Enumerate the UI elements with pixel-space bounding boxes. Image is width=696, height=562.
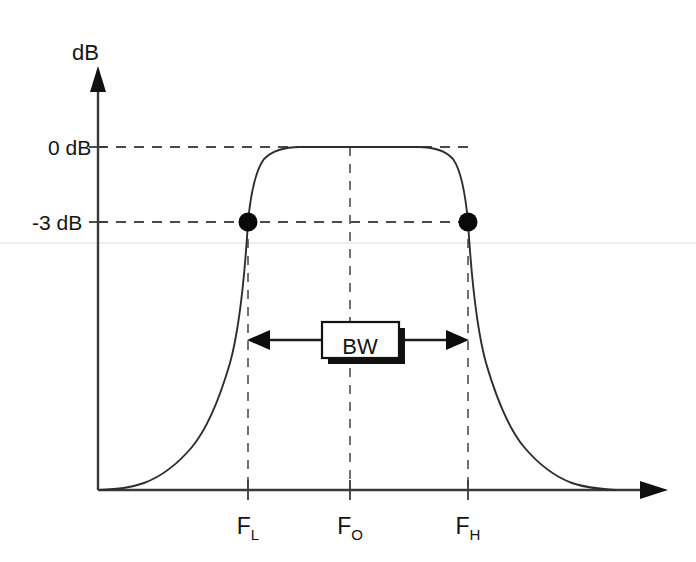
y-axis-label: dB	[72, 40, 99, 65]
bandpass-response-chart: dB 0 dB -3 dB BW FL FO FH	[0, 0, 696, 562]
bandwidth-label: BW	[342, 334, 378, 359]
fh-cutoff-marker	[459, 213, 478, 232]
fh-base: F	[456, 513, 470, 539]
fo-base: F	[337, 513, 351, 539]
fl-sub: L	[251, 526, 259, 543]
fl-cutoff-marker	[239, 213, 258, 232]
minus-three-db-label: -3 dB	[32, 211, 82, 234]
fo-sub: O	[351, 526, 363, 543]
figure-root: dB 0 dB -3 dB BW FL FO FH	[0, 0, 696, 562]
fh-sub: H	[470, 526, 481, 543]
chart-background	[0, 0, 696, 562]
fl-base: F	[237, 513, 251, 539]
zero-db-label: 0 dB	[48, 136, 91, 159]
